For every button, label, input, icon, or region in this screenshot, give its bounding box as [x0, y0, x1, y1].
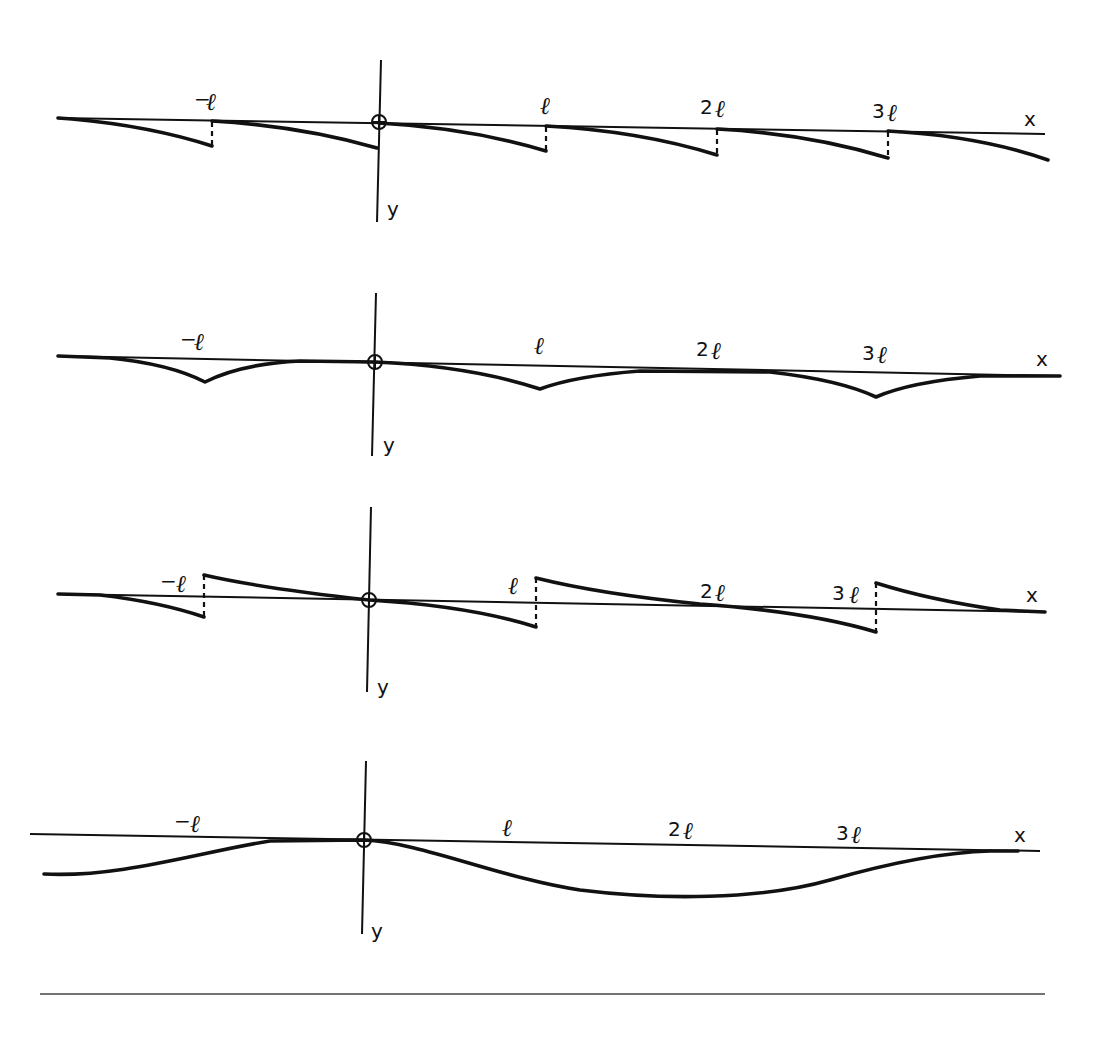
tick-label-neg-l-minus: − — [174, 809, 191, 833]
sawtooth-segment — [888, 131, 1048, 160]
x-axis-label: x — [1014, 823, 1026, 847]
sawtooth-segment — [379, 123, 546, 151]
tick-label-3l-digit: 3 — [862, 341, 875, 365]
y-axis-label: y — [383, 433, 395, 457]
y-axis — [377, 60, 381, 222]
tick-label-2l: ℓ — [711, 337, 721, 365]
tick-label-2l-digit: 2 — [668, 817, 681, 841]
tick-label-2l: ℓ — [683, 817, 693, 845]
tick-label-l: ℓ — [502, 814, 512, 842]
panel-1-sawtooth: − ℓ ℓ 2 ℓ 3 ℓ x y — [58, 60, 1048, 222]
x-axis-label: x — [1024, 107, 1036, 131]
panel-3-odd-sawtooth: − ℓ ℓ 2 ℓ 3 ℓ x y — [58, 507, 1045, 699]
tick-label-neg-l: ℓ — [194, 328, 204, 356]
tick-label-l: ℓ — [508, 572, 518, 600]
odd-sawtooth-segment — [876, 583, 1045, 612]
periodic-functions-figure: − ℓ ℓ 2 ℓ 3 ℓ x y − ℓ ℓ 2 ℓ 3 ℓ x y — [0, 0, 1111, 1040]
panel-4-smooth-wave: − ℓ ℓ 2 ℓ 3 ℓ x y — [30, 761, 1040, 943]
y-axis-label: y — [377, 675, 389, 699]
y-axis-label: y — [387, 197, 399, 221]
tick-label-3l: ℓ — [849, 581, 859, 609]
panel-2-scalloped: − ℓ ℓ 2 ℓ 3 ℓ x y — [58, 293, 1060, 457]
tick-label-2l-digit: 2 — [700, 95, 713, 119]
tick-label-3l-digit: 3 — [872, 99, 885, 123]
y-axis — [372, 293, 376, 456]
tick-label-neg-l-minus: − — [160, 569, 177, 593]
tick-label-neg-l: ℓ — [176, 570, 186, 598]
x-axis — [30, 834, 1040, 851]
tick-label-3l-digit: 3 — [836, 821, 849, 845]
tick-label-3l: ℓ — [851, 821, 861, 849]
scalloped-curve — [58, 356, 1060, 397]
sawtooth-segment — [58, 118, 212, 146]
tick-label-l: ℓ — [540, 92, 550, 120]
sawtooth-segment — [546, 126, 717, 155]
tick-label-l: ℓ — [534, 332, 544, 360]
x-axis — [58, 594, 1045, 612]
tick-label-2l-digit: 2 — [696, 337, 709, 361]
tick-label-3l-digit: 3 — [832, 581, 845, 605]
tick-label-2l: ℓ — [715, 95, 725, 123]
x-axis — [58, 356, 1060, 376]
x-axis-label: x — [1036, 347, 1048, 371]
x-axis-label: x — [1026, 583, 1038, 607]
tick-label-neg-l: ℓ — [206, 88, 216, 116]
sawtooth-segment — [212, 121, 377, 148]
tick-label-2l-digit: 2 — [700, 579, 713, 603]
tick-label-3l: ℓ — [887, 99, 897, 127]
tick-label-neg-l: ℓ — [190, 810, 200, 838]
tick-label-3l: ℓ — [877, 341, 887, 369]
sawtooth-segment — [717, 129, 888, 158]
y-axis-label: y — [371, 919, 383, 943]
tick-label-2l: ℓ — [715, 579, 725, 607]
